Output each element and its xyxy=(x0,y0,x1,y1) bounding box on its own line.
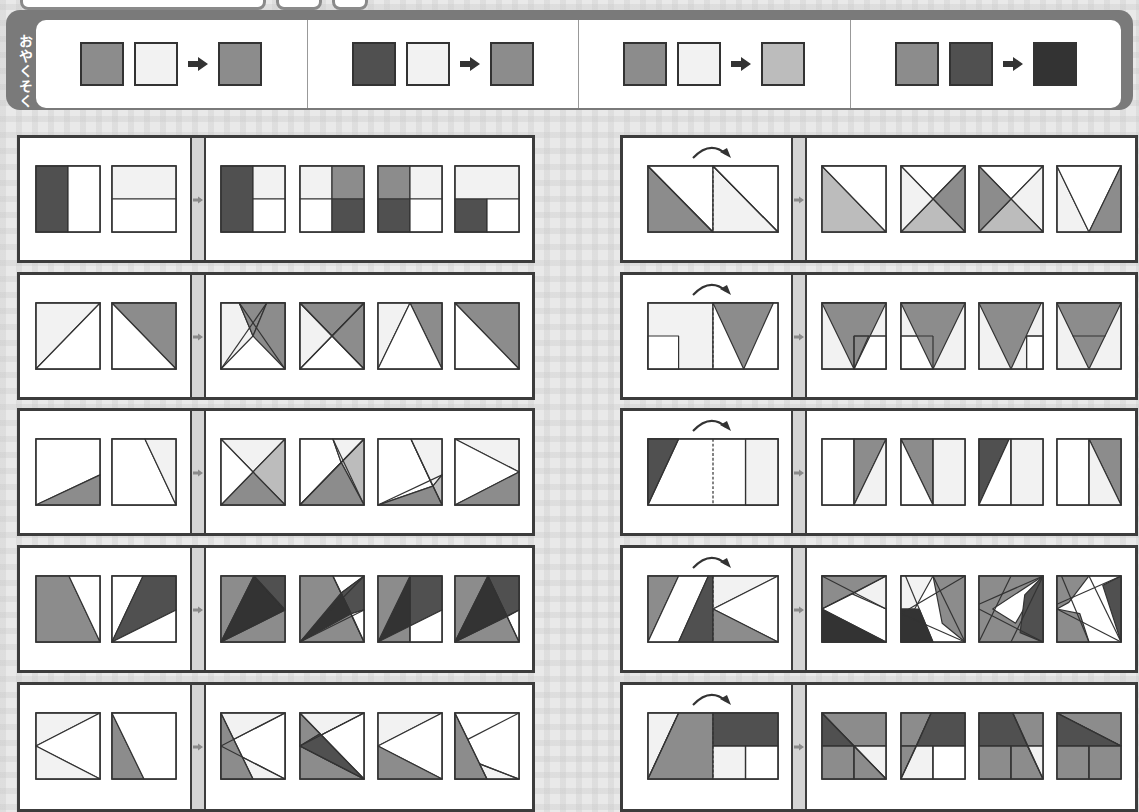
answer-option-3[interactable] xyxy=(377,165,443,233)
answer-option-3[interactable] xyxy=(978,438,1044,506)
answer-option-1[interactable] xyxy=(220,712,286,780)
puzzle-divider xyxy=(190,548,206,670)
answer-option-2[interactable] xyxy=(900,165,966,233)
puzzle-divider xyxy=(190,138,206,260)
swatch-result xyxy=(761,42,805,86)
fold-arrow-icon xyxy=(690,553,734,571)
source-figure-b xyxy=(111,712,177,780)
answer-option-3[interactable] xyxy=(377,575,443,643)
arrow-right-icon xyxy=(731,57,751,71)
puzzle-r3 xyxy=(620,408,1138,536)
source-figure-b xyxy=(111,302,177,370)
answer-option-3[interactable] xyxy=(978,302,1044,370)
fold-arrow-icon xyxy=(690,280,734,298)
puzzle-l4 xyxy=(17,545,535,673)
puzzle-question xyxy=(623,548,791,670)
puzzle-r2 xyxy=(620,272,1138,400)
top-tab-3 xyxy=(332,0,368,10)
swatch-result xyxy=(1033,42,1077,86)
answer-option-1[interactable] xyxy=(821,712,887,780)
arrow-right-icon xyxy=(794,195,804,205)
answer-option-4[interactable] xyxy=(454,575,520,643)
answer-option-2[interactable] xyxy=(299,575,365,643)
answer-option-3[interactable] xyxy=(377,438,443,506)
swatch-result xyxy=(218,42,262,86)
puzzle-divider xyxy=(791,548,807,670)
answer-option-4[interactable] xyxy=(1056,438,1122,506)
source-figure-b xyxy=(111,438,177,506)
puzzle-question xyxy=(20,685,190,809)
swatch-a xyxy=(623,42,667,86)
puzzle-question xyxy=(20,548,190,670)
answer-option-4[interactable] xyxy=(454,165,520,233)
answer-option-1[interactable] xyxy=(220,575,286,643)
fold-figure xyxy=(647,575,779,643)
answer-option-2[interactable] xyxy=(299,165,365,233)
legend-rule-3 xyxy=(578,20,850,108)
answer-option-2[interactable] xyxy=(299,438,365,506)
answer-option-1[interactable] xyxy=(220,302,286,370)
answer-option-3[interactable] xyxy=(978,165,1044,233)
answer-option-1[interactable] xyxy=(821,165,887,233)
answer-option-4[interactable] xyxy=(1056,712,1122,780)
answer-option-3[interactable] xyxy=(978,575,1044,643)
arrow-right-icon xyxy=(193,605,203,615)
puzzle-divider xyxy=(791,411,807,533)
arrow-right-icon xyxy=(794,468,804,478)
answer-option-4[interactable] xyxy=(1056,302,1122,370)
answer-option-1[interactable] xyxy=(821,302,887,370)
puzzle-answers xyxy=(206,548,532,670)
answer-option-4[interactable] xyxy=(454,438,520,506)
puzzle-question xyxy=(20,138,190,260)
puzzle-l1 xyxy=(17,135,535,263)
puzzle-l3 xyxy=(17,408,535,536)
answer-option-2[interactable] xyxy=(299,302,365,370)
answer-option-1[interactable] xyxy=(220,438,286,506)
puzzle-question xyxy=(20,411,190,533)
answer-option-3[interactable] xyxy=(377,712,443,780)
answer-option-3[interactable] xyxy=(978,712,1044,780)
swatch-b xyxy=(134,42,178,86)
color-rules-legend: おやくそく xyxy=(6,10,1133,110)
puzzle-question xyxy=(623,411,791,533)
answer-option-1[interactable] xyxy=(821,438,887,506)
arrow-right-icon xyxy=(193,195,203,205)
puzzle-answers xyxy=(807,685,1135,809)
top-tabs xyxy=(20,0,368,10)
answer-option-4[interactable] xyxy=(1056,165,1122,233)
puzzle-question xyxy=(20,275,190,397)
puzzle-answers xyxy=(807,548,1135,670)
arrow-right-icon xyxy=(1003,57,1023,71)
puzzle-answers xyxy=(206,138,532,260)
source-figure-b xyxy=(111,165,177,233)
puzzle-l5 xyxy=(17,682,535,812)
answer-option-1[interactable] xyxy=(821,575,887,643)
puzzle-answers xyxy=(206,411,532,533)
fold-figure xyxy=(647,712,779,780)
answer-option-2[interactable] xyxy=(900,438,966,506)
puzzle-question xyxy=(623,685,791,809)
puzzle-divider xyxy=(791,685,807,809)
legend-tag: おやくそく xyxy=(10,34,32,109)
answer-option-2[interactable] xyxy=(900,302,966,370)
answer-option-2[interactable] xyxy=(900,712,966,780)
puzzle-divider xyxy=(791,138,807,260)
source-figure-a xyxy=(35,438,101,506)
answer-option-3[interactable] xyxy=(377,302,443,370)
answer-option-2[interactable] xyxy=(299,712,365,780)
swatch-result xyxy=(490,42,534,86)
swatch-b xyxy=(677,42,721,86)
answer-option-4[interactable] xyxy=(454,302,520,370)
fold-figure xyxy=(647,438,779,506)
puzzle-r5 xyxy=(620,682,1138,812)
answer-option-2[interactable] xyxy=(900,575,966,643)
fold-figure xyxy=(647,302,779,370)
legend-rule-2 xyxy=(307,20,579,108)
fold-figure xyxy=(647,165,779,233)
puzzle-answers xyxy=(206,275,532,397)
answer-option-4[interactable] xyxy=(454,712,520,780)
puzzle-answers xyxy=(206,685,532,809)
puzzle-question xyxy=(623,275,791,397)
answer-option-4[interactable] xyxy=(1056,575,1122,643)
answer-option-1[interactable] xyxy=(220,165,286,233)
